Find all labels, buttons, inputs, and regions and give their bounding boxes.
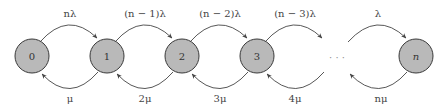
arc-n-to-ellipsis [350, 72, 407, 89]
arc-2-to-3 [190, 25, 247, 42]
node-label: 3 [254, 51, 260, 62]
rate-label-backward-0: μ [67, 93, 74, 104]
node-label: 1 [104, 51, 110, 62]
rate-label-backward-2: 3μ [214, 93, 227, 104]
rate-label-forward-3: (n − 3)λ [274, 8, 316, 19]
state-node-1: 1 [90, 39, 124, 73]
arc-3-to-2 [192, 72, 248, 89]
node-label: n [413, 51, 419, 62]
node-label: 2 [179, 51, 185, 62]
state-node-3: 3 [240, 39, 274, 73]
arc-2-to-1 [117, 72, 173, 89]
rate-label-forward-1: (n − 1)λ [124, 8, 166, 19]
ellipsis: · · · [329, 52, 345, 63]
rate-label-forward-4: λ [375, 8, 382, 19]
arc-3-to-ellipsis [265, 25, 322, 42]
arc-ellipsis-to-n [348, 25, 406, 42]
arc-1-to-0 [42, 72, 98, 89]
state-node-n: n [399, 39, 433, 73]
state-node-0: 0 [15, 39, 49, 73]
arc-1-to-2 [115, 25, 172, 42]
state-node-2: 2 [165, 39, 199, 73]
backward-transitions: μ 2μ 3μ 4μ nμ [42, 72, 407, 104]
node-label: 0 [29, 51, 35, 62]
rate-label-backward-3: 4μ [289, 93, 302, 104]
birth-death-diagram: nλ (n − 1)λ (n − 2)λ (n − 3)λ λ μ 2μ 3μ … [0, 0, 448, 109]
rate-label-forward-0: nλ [64, 8, 77, 19]
arc-0-to-1 [40, 25, 97, 42]
arc-ellipsis-to-3 [267, 72, 324, 89]
rate-label-backward-1: 2μ [139, 93, 152, 104]
forward-transitions: nλ (n − 1)λ (n − 2)λ (n − 3)λ λ [40, 8, 406, 42]
rate-label-backward-4: nμ [375, 93, 388, 104]
rate-label-forward-2: (n − 2)λ [199, 8, 241, 19]
